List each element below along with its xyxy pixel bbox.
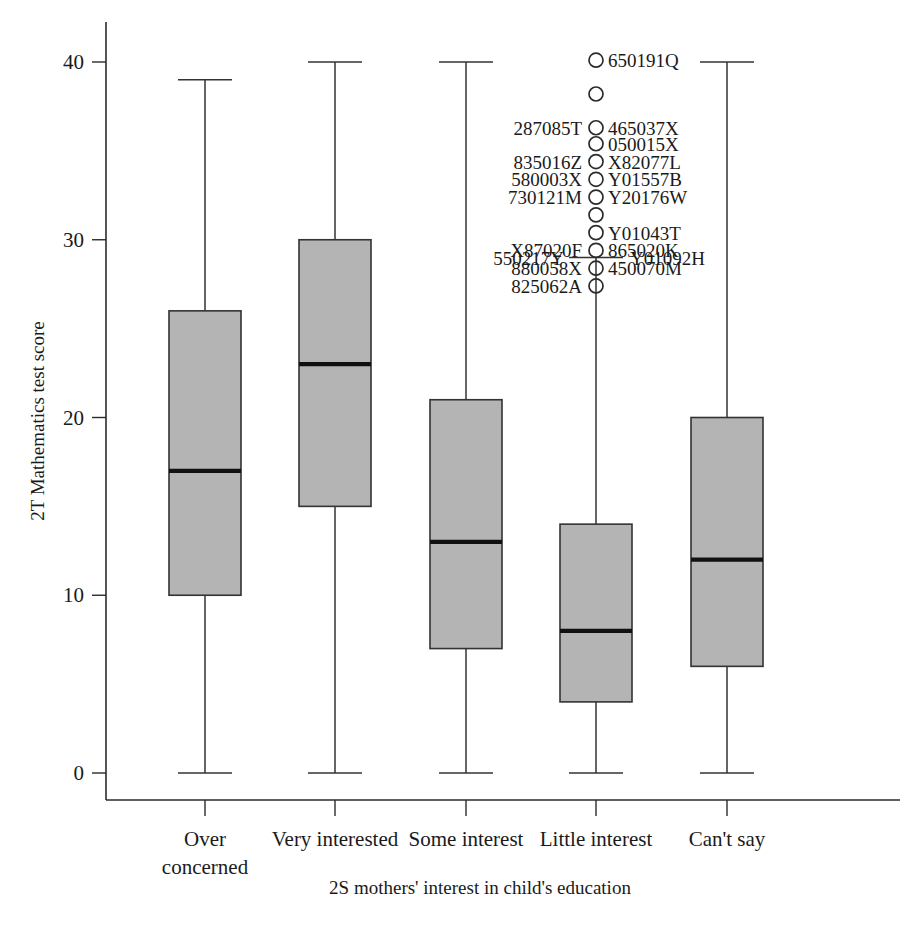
- box-plot-item: [691, 62, 763, 773]
- x-tick-label: Very interested: [272, 827, 399, 851]
- y-tick-label: 40: [63, 50, 84, 74]
- outlier-marker: [589, 226, 603, 240]
- outlier-marker: [589, 243, 603, 257]
- outlier-label: 650191Q: [608, 50, 679, 71]
- x-tick-label: Over: [184, 827, 226, 851]
- boxplot-svg: 010203040 OverconcernedVery interestedSo…: [0, 0, 903, 925]
- x-axis-title: 2S mothers' interest in child's educatio…: [329, 877, 631, 898]
- outlier-label: 825062A: [511, 276, 582, 297]
- x-axis-ticks: OverconcernedVery interestedSome interes…: [162, 800, 766, 879]
- outlier-marker: [589, 190, 603, 204]
- box-iqr: [169, 311, 241, 595]
- y-tick-label: 20: [63, 406, 84, 430]
- x-tick-label: concerned: [162, 855, 249, 879]
- whisker-cap-label: 550217Y: [493, 248, 564, 269]
- y-axis-ticks: 010203040: [63, 50, 106, 785]
- x-tick-label: Some interest: [409, 827, 524, 851]
- outlier-marker: [589, 121, 603, 135]
- outlier-points: 650191Q465037X287085T050015XX82077L83501…: [493, 50, 705, 297]
- outlier-marker: [589, 87, 603, 101]
- whisker-cap-label: Y01092H: [630, 248, 705, 269]
- y-tick-label: 0: [74, 761, 85, 785]
- y-tick-label: 30: [63, 228, 84, 252]
- x-tick-label: Little interest: [540, 827, 653, 851]
- box-plot-item: [299, 62, 371, 773]
- outlier-marker: [589, 53, 603, 67]
- outlier-marker: [589, 208, 603, 222]
- box-plot-item: [560, 258, 632, 773]
- box-plot-item: [169, 80, 241, 773]
- box-iqr: [299, 240, 371, 507]
- outlier-marker: [589, 155, 603, 169]
- x-tick-label: Can't say: [689, 827, 766, 851]
- box-iqr: [430, 400, 502, 649]
- outlier-label: 287085T: [513, 118, 582, 139]
- outlier-label: 730121M: [508, 187, 582, 208]
- outlier-label: Y20176W: [608, 187, 687, 208]
- y-axis-title: 2T Mathematics test score: [27, 321, 48, 521]
- box-iqr: [560, 524, 632, 702]
- outlier-marker: [589, 172, 603, 186]
- outlier-marker: [589, 137, 603, 151]
- y-tick-label: 10: [63, 583, 84, 607]
- boxplot-figure: 010203040 OverconcernedVery interestedSo…: [0, 0, 903, 925]
- box-plot-item: [430, 62, 502, 773]
- box-iqr: [691, 418, 763, 667]
